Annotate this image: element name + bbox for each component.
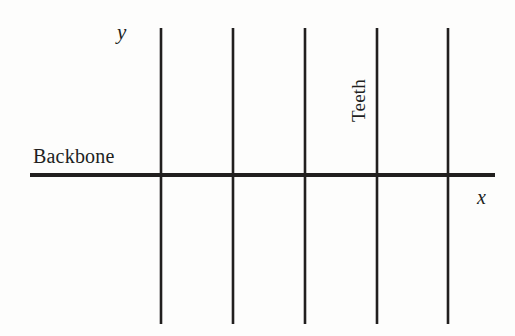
teeth-label: Teeth [349, 79, 368, 122]
y-axis-label: y [117, 22, 126, 43]
x-axis-label: x [477, 187, 486, 207]
comb-diagram: Backbone Teeth y x [0, 0, 515, 336]
backbone-label: Backbone [33, 146, 115, 166]
comb-diagram-canvas [0, 0, 515, 336]
